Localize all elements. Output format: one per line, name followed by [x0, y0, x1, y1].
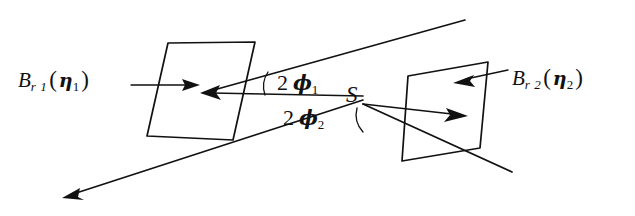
upper-angle-coefficient: 2 [277, 70, 293, 95]
lower-angle-label: 2ϕ2 [283, 107, 324, 131]
lower-angle-coefficient: 2 [283, 105, 299, 130]
right-axis-arrowhead [444, 108, 468, 122]
lower-left-arrowhead [62, 188, 84, 200]
upper-angle-label: 2ϕ1 [277, 72, 318, 96]
optical-scattering-diagram: Br 1(η1) Br 2(η2) 2ϕ1 2ϕ2 S [0, 0, 635, 216]
lower-angle-arc [356, 108, 363, 132]
right-plane-subscript: r 2 [525, 77, 541, 92]
left-plane-symbol: B [18, 68, 31, 92]
lower-right-ray [363, 104, 512, 172]
right-axis-ray [363, 104, 452, 114]
upper-divergent-ray [203, 20, 465, 93]
right-plane-variable: η [553, 67, 567, 89]
lower-angle-variable: ϕ [299, 106, 318, 130]
right-label-arrowhead [453, 75, 475, 87]
left-plane-open-paren: ( [47, 67, 59, 92]
left-parallelogram [147, 42, 255, 140]
right-plane-symbol: B [512, 66, 525, 90]
right-plane-label: Br 2(η2) [512, 66, 585, 91]
upper-angle-variable: ϕ [293, 71, 312, 95]
right-plane-open-paren: ( [541, 65, 553, 90]
source-point-label: S [346, 83, 358, 106]
left-plane-subscript: r 1 [31, 79, 47, 94]
right-plane-close-paren: ) [573, 65, 585, 90]
lower-angle-subscript: 2 [318, 117, 325, 132]
left-plane-label: Br 1(η1) [18, 68, 91, 93]
left-plane-close-paren: ) [79, 67, 91, 92]
upper-angle-subscript: 1 [312, 82, 319, 97]
left-plane-variable: η [59, 69, 73, 91]
